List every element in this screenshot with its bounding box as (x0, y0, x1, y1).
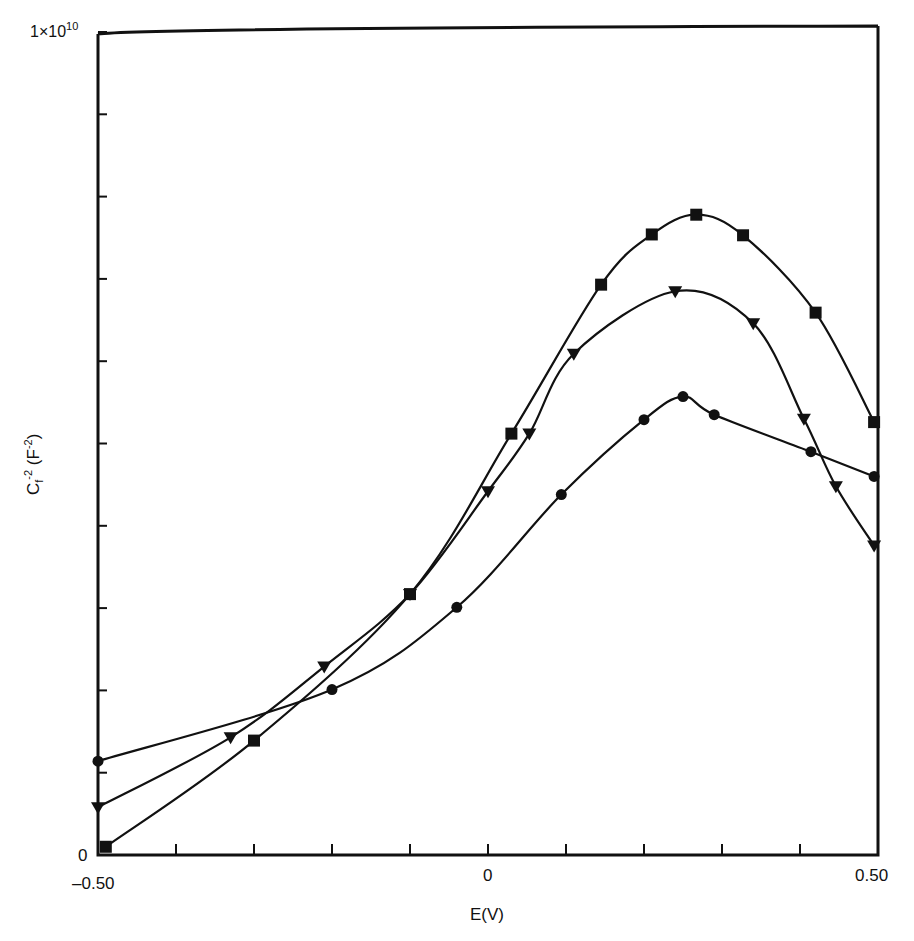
circle-marker (93, 756, 104, 767)
circle-marker (709, 409, 720, 420)
circle-marker (678, 391, 689, 402)
square-marker (810, 307, 822, 319)
series-line-circles (98, 397, 874, 762)
triangle-marker (829, 481, 843, 493)
circle-marker (805, 446, 816, 457)
triangle-marker (522, 429, 536, 441)
triangle-marker (224, 732, 238, 744)
series-line-squares (106, 215, 874, 847)
y-axis-label: Cf-2 (F-2) (22, 434, 45, 495)
circle-marker (556, 489, 567, 500)
square-marker (595, 279, 607, 291)
x-tick-label-max: 0.50 (855, 866, 888, 886)
series-line-triangles (98, 290, 874, 807)
triangle-marker (797, 414, 811, 426)
circle-marker (639, 414, 650, 425)
y-axis-zero-label: 0 (78, 846, 87, 866)
square-marker (737, 229, 749, 241)
square-marker (248, 735, 260, 747)
square-marker (868, 416, 880, 428)
x-tick-label-min: –0.50 (72, 874, 115, 894)
axes-frame (98, 26, 878, 855)
y-axis-max-label: 1×1010 (30, 20, 78, 41)
chart-plot-area (0, 0, 914, 941)
circle-marker (451, 602, 462, 613)
square-marker (505, 428, 517, 440)
triangle-marker (91, 802, 105, 814)
square-marker (646, 228, 658, 240)
x-tick-label-zero: 0 (483, 866, 492, 886)
square-marker (690, 209, 702, 221)
circle-marker (327, 684, 338, 695)
x-axis-label: E(V) (470, 905, 504, 925)
circle-marker (869, 471, 880, 482)
square-marker (100, 841, 112, 853)
